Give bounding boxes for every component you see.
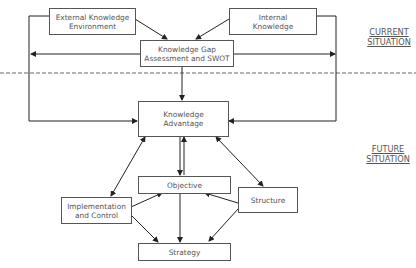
structure-node: Structure	[238, 187, 298, 213]
external-knowledge-environment-node: External Knowledge Environment	[49, 8, 136, 35]
knowledge-advantage-node: Knowledge Advantage	[138, 101, 229, 137]
knowledge-gap-swot-node: Knowledge Gap Assessment and SWOT	[140, 40, 234, 67]
implementation-and-control-node: Implementation and Control	[61, 197, 132, 224]
future-situation-label: FUTURE SITUATION	[360, 144, 416, 164]
internal-knowledge-node: Internal Knowledge	[229, 8, 317, 35]
current-situation-label: CURRENT SITUATION	[362, 27, 416, 47]
strategy-node: Strategy	[138, 243, 231, 261]
objective-node: Objective	[138, 176, 231, 194]
